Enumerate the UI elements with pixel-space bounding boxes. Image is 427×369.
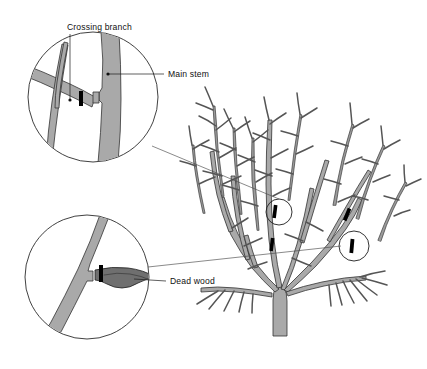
inset-cut-stub	[93, 92, 99, 103]
crossing-branch-label: Crossing branch	[67, 22, 132, 32]
pruning-diagram-figure: Crossing branch Main stem Dead wood	[0, 0, 427, 369]
main-stem-label: Main stem	[168, 69, 209, 79]
dead-wood-label: Dead wood	[170, 276, 215, 286]
crossing-branch-leader-dot	[68, 98, 71, 101]
main-stem-leader-dot	[106, 72, 109, 75]
diagram-canvas: Crossing branch Main stem Dead wood	[0, 0, 427, 369]
shrub-trunk	[273, 286, 287, 336]
inset-lower-cut-mark	[99, 265, 103, 282]
inset-upper-cut-mark	[79, 91, 83, 106]
